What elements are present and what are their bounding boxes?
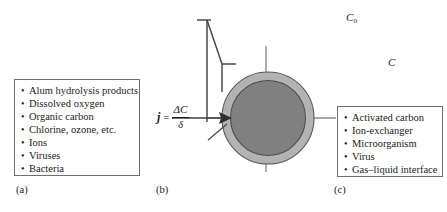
bulk-concentration-label: Co: [346, 11, 357, 25]
list-item-label: Microorganism: [352, 138, 417, 149]
list-item: •Alum hydrolysis products: [21, 84, 134, 97]
panel-c-item-box: •Activated carbon •Ion-exchanger •Microo…: [337, 106, 443, 177]
list-item-label: Ions: [29, 137, 47, 148]
bullet-icon: •: [344, 163, 348, 176]
list-item: •Gas–liquid interface: [344, 163, 437, 176]
list-item: •Virus: [344, 150, 437, 163]
equals-sign: =: [163, 111, 169, 123]
list-item-label: Virus: [352, 151, 375, 162]
bullet-icon: •: [21, 97, 25, 110]
list-item: •Chlorine, ozone, etc.: [21, 123, 134, 136]
bullet-icon: •: [344, 137, 348, 150]
panel-a-item-box: •Alum hydrolysis products •Dissolved oxy…: [14, 79, 140, 176]
bullet-icon: •: [21, 123, 25, 136]
list-item: •Viruses: [21, 149, 134, 162]
panel-a-caption: (a): [16, 184, 28, 195]
bullet-icon: •: [21, 149, 25, 162]
list-item-label: Dissolved oxygen: [29, 98, 105, 109]
list-item-label: Bacteria: [29, 163, 64, 174]
bullet-icon: •: [21, 84, 25, 97]
bullet-icon: •: [21, 136, 25, 149]
bullet-icon: •: [21, 162, 25, 175]
bullet-icon: •: [344, 124, 348, 137]
figure-container: •Alum hydrolysis products •Dissolved oxy…: [0, 0, 447, 212]
list-item-label: Activated carbon: [352, 112, 424, 123]
list-item: •Ions: [21, 136, 134, 149]
list-item: •Bacteria: [21, 162, 134, 175]
flux-symbol: j: [157, 110, 160, 125]
list-item: •Ion-exchanger: [344, 124, 437, 137]
panel-c-list: •Activated carbon •Ion-exchanger •Microo…: [344, 111, 437, 176]
panel-a-list: •Alum hydrolysis products •Dissolved oxy…: [21, 84, 134, 175]
panel-c-caption: (c): [334, 184, 346, 195]
list-item: •Activated carbon: [344, 111, 437, 124]
concentration-gradient-line: [207, 20, 222, 64]
c0-symbol: C: [346, 11, 353, 23]
list-item: •Organic carbon: [21, 110, 134, 123]
bullet-icon: •: [21, 110, 25, 123]
list-item: •Dissolved oxygen: [21, 97, 134, 110]
flux-equation: j = ΔC δ: [157, 104, 189, 130]
list-item-label: Alum hydrolysis products: [29, 85, 138, 96]
list-item-label: Chlorine, ozone, etc.: [29, 124, 116, 135]
panel-b-diagram: Co C δ: [150, 0, 350, 180]
bullet-icon: •: [344, 150, 348, 163]
flux-fraction: ΔC δ: [172, 104, 190, 130]
diagram-svg: [150, 0, 350, 180]
bullet-icon: •: [344, 111, 348, 124]
list-item-label: Organic carbon: [29, 111, 94, 122]
particle-core-circle: [231, 81, 306, 156]
surface-concentration-label: C: [388, 56, 395, 68]
list-item: •Microorganism: [344, 137, 437, 150]
fraction-denominator: δ: [178, 118, 183, 131]
panel-b-caption: (b): [156, 184, 168, 195]
fraction-numerator: ΔC: [172, 104, 190, 118]
list-item-label: Gas–liquid interface: [352, 164, 437, 175]
list-item-label: Ion-exchanger: [352, 125, 413, 136]
list-item-label: Viruses: [29, 150, 60, 161]
c0-subscript: o: [354, 16, 358, 25]
